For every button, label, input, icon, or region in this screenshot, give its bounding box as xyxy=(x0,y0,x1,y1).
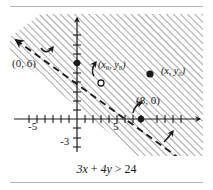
point-solution-filled xyxy=(146,70,153,77)
coordinate-plane xyxy=(10,14,203,156)
label-solution-point: (x, y₀) xyxy=(161,66,185,76)
point-x-intercept xyxy=(138,116,144,122)
label-x-intercept: (8, 0) xyxy=(136,95,160,106)
figure-caption: 3x + 4y > 24 xyxy=(0,162,213,177)
label-y-intercept: (0, 6) xyxy=(12,58,36,69)
point-boundary-open xyxy=(98,80,104,86)
label-boundary-point: (x₀, y₀) xyxy=(98,60,126,70)
inequality-graph-figure: (0, 6) (8, 0) (x₀, y₀) (x, y₀) -5 5 -3 3… xyxy=(0,0,213,190)
point-y-intercept xyxy=(74,60,80,66)
bottom-divider xyxy=(10,182,203,183)
x-axis-tick-label-negative-five: -5 xyxy=(28,121,37,132)
shaded-solution-region xyxy=(10,14,203,156)
caption-term-two: 4y xyxy=(101,162,112,176)
caption-relation-operator: > xyxy=(112,162,125,176)
caption-constant: 24 xyxy=(125,162,137,176)
top-divider xyxy=(10,6,203,7)
y-axis-tick-label-negative-three: -3 xyxy=(60,136,69,147)
x-axis-tick-label-five: 5 xyxy=(113,121,119,132)
caption-plus-operator: + xyxy=(88,162,101,176)
caption-term-one: 3x xyxy=(76,162,87,176)
